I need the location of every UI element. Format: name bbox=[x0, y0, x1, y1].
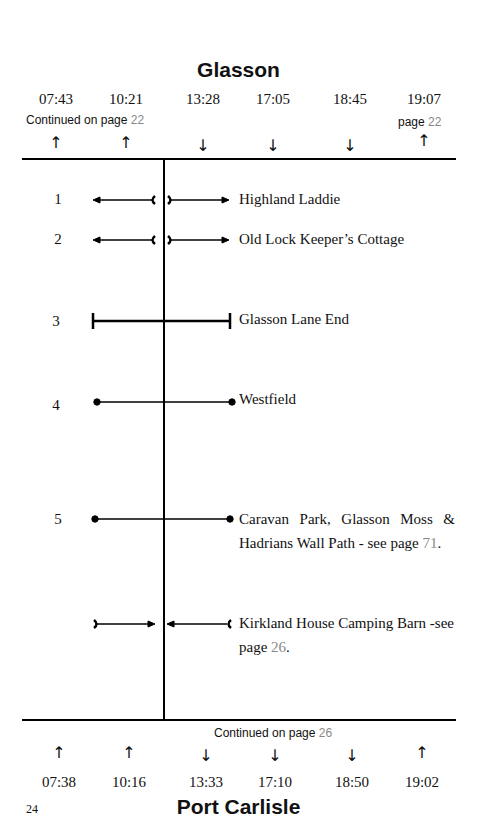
arrow-down-icon: ↓ bbox=[317, 746, 387, 765]
continued-note-bottom: Continued on page 26 bbox=[214, 726, 332, 740]
stop-label: Glasson Lane End bbox=[239, 307, 349, 331]
page-link[interactable]: 71 bbox=[422, 535, 437, 551]
row-number: 3 bbox=[46, 313, 66, 330]
row-number: 2 bbox=[48, 231, 68, 248]
row-number: 4 bbox=[46, 397, 66, 414]
arrow-up-icon: ↑ bbox=[24, 743, 94, 762]
arrival-time: 13:33 bbox=[171, 774, 241, 791]
arrival-time: 10:16 bbox=[94, 774, 164, 791]
arrival-time: 17:10 bbox=[240, 774, 310, 791]
arrow-down-icon: ↓ bbox=[171, 746, 241, 765]
destination-stop-title: Port Carlisle bbox=[0, 795, 477, 819]
stop-label: Highland Laddie bbox=[239, 187, 340, 211]
stop-label: Kirkland House Camping Barn -see page 26… bbox=[239, 611, 459, 659]
page-link[interactable]: 26 bbox=[271, 639, 286, 655]
stop-label: Caravan Park, Glasson Moss & Hadrians Wa… bbox=[239, 507, 455, 555]
arrival-time: 07:38 bbox=[24, 774, 94, 791]
page-link[interactable]: 26 bbox=[319, 726, 332, 740]
arrow-up-icon: ↑ bbox=[387, 743, 457, 762]
arrow-down-icon: ↓ bbox=[240, 746, 310, 765]
row-number: 1 bbox=[48, 191, 68, 208]
row-number: 5 bbox=[48, 511, 68, 528]
arrival-time: 18:50 bbox=[317, 774, 387, 791]
stop-label: Old Lock Keeper’s Cottage bbox=[239, 227, 404, 251]
arrival-time: 19:02 bbox=[387, 774, 457, 791]
arrow-up-icon: ↑ bbox=[94, 743, 164, 762]
stop-label: Westfield bbox=[239, 387, 296, 411]
